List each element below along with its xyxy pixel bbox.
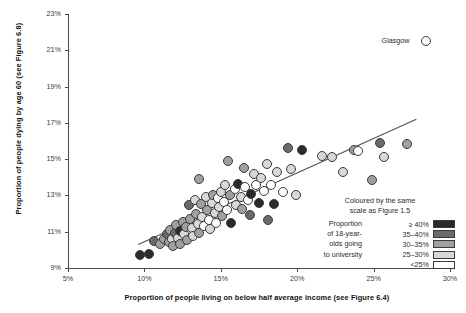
legend-row-label: <25% xyxy=(410,260,429,269)
x-axis-title: Proportion of people living on below hal… xyxy=(62,293,452,302)
chart-figure: Proportion of people dying by age 60 (se… xyxy=(0,0,466,313)
legend-swatch xyxy=(433,230,455,238)
legend-row: 25–30% xyxy=(367,250,455,260)
y-tick-label: 11% xyxy=(35,227,61,236)
scatter-point xyxy=(220,180,230,190)
y-tick-label: 23% xyxy=(35,9,61,18)
x-tick-label: 5% xyxy=(53,274,83,283)
y-axis-title: Proportion of people dying by age 60 (se… xyxy=(14,35,23,215)
legend-swatch xyxy=(433,251,455,259)
scatter-point xyxy=(266,180,276,190)
legend-header: Coloured by the same scale as Figure 1.5 xyxy=(300,196,460,216)
x-tick-label: 25% xyxy=(359,274,389,283)
scatter-point xyxy=(226,218,236,228)
scatter-point xyxy=(297,145,307,155)
legend-row-label: ≥ 40% xyxy=(409,220,429,229)
scatter-point xyxy=(283,143,293,153)
scatter-point xyxy=(278,187,288,197)
scatter-point xyxy=(402,139,412,149)
scatter-point xyxy=(263,215,273,225)
scatter-point xyxy=(223,156,233,166)
x-tick-label: 10% xyxy=(129,274,159,283)
legend: Coloured by the same scale as Figure 1.5… xyxy=(300,196,460,270)
y-tick-label: 19% xyxy=(35,82,61,91)
legend-swatch-rows: ≥ 40%35–40%30–35%25–30%<25% xyxy=(367,219,455,270)
x-tick-label: 20% xyxy=(282,274,312,283)
legend-caption-line: to university xyxy=(300,250,362,260)
legend-caption-line: olds going xyxy=(300,239,362,249)
x-tick-label: 15% xyxy=(206,274,236,283)
scatter-point xyxy=(338,167,348,177)
scatter-point xyxy=(144,249,154,259)
x-tick-label: 30% xyxy=(435,274,465,283)
y-tick-label: 17% xyxy=(35,118,61,127)
scatter-point xyxy=(353,146,363,156)
legend-swatch xyxy=(433,261,455,269)
legend-swatch xyxy=(433,240,455,248)
scatter-point xyxy=(262,159,272,169)
y-tick-label: 15% xyxy=(35,154,61,163)
legend-row-label: 30–35% xyxy=(403,240,429,249)
scatter-point xyxy=(256,173,266,183)
scatter-point xyxy=(327,152,337,162)
legend-row: <25% xyxy=(367,260,455,270)
scatter-point xyxy=(245,210,255,220)
legend-header-line2: scale as Figure 1.5 xyxy=(300,206,460,216)
scatter-point xyxy=(246,189,256,199)
y-tick-label: 13% xyxy=(35,190,61,199)
glasgow-annotation: Glasgow xyxy=(382,36,410,45)
scatter-point xyxy=(254,198,264,208)
legend-row-label: 25–30% xyxy=(403,250,429,259)
scatter-point xyxy=(379,152,389,162)
scatter-point xyxy=(269,199,279,209)
legend-row: ≥ 40% xyxy=(367,219,455,229)
scatter-point xyxy=(421,36,431,46)
legend-caption: Proportionof 18-year-olds goingto univer… xyxy=(300,219,367,270)
y-tick-label: 21% xyxy=(35,45,61,54)
legend-row: 35–40% xyxy=(367,229,455,239)
legend-row-label: 35–40% xyxy=(403,230,429,239)
legend-caption-line: of 18-year- xyxy=(300,229,362,239)
legend-header-line1: Coloured by the same xyxy=(300,196,460,206)
legend-swatch xyxy=(433,220,455,228)
scatter-point xyxy=(367,175,377,185)
scatter-point xyxy=(239,163,249,173)
scatter-point xyxy=(194,174,204,184)
legend-caption-line: Proportion xyxy=(300,219,362,229)
y-tick-label: 9% xyxy=(35,263,61,272)
scatter-point xyxy=(375,138,385,148)
scatter-point xyxy=(272,167,282,177)
legend-row: 30–35% xyxy=(367,239,455,249)
